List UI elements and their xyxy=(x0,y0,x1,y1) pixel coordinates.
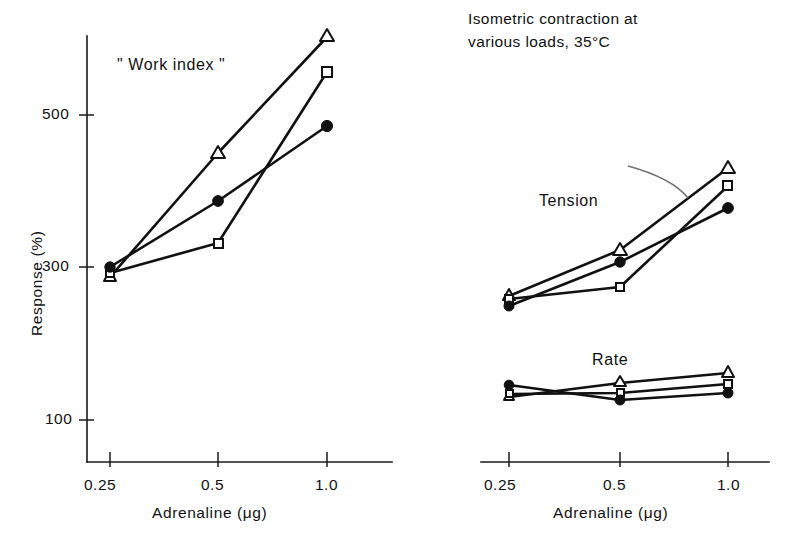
left-y-tick-label-100: 100 xyxy=(45,410,72,428)
marker-circle xyxy=(615,395,625,405)
left-series-square xyxy=(106,67,332,277)
marker-square xyxy=(214,239,223,248)
left-x-axis-title: Adrenaline (μg) xyxy=(152,504,267,522)
right-x-tick-label-025: 0.25 xyxy=(484,476,516,494)
marker-square xyxy=(322,67,332,77)
left-x-tick-label-05: 0.5 xyxy=(201,476,224,494)
left-x-tick-label-10: 1.0 xyxy=(315,476,338,494)
left-y-tick-label-300: 300 xyxy=(42,257,69,275)
figure-canvas: " Work index " 500 300 100 0.25 0.5 1.0 … xyxy=(0,0,788,536)
marker-circle xyxy=(213,196,224,207)
tension-series-circle xyxy=(504,203,733,311)
marker-circle xyxy=(723,388,733,398)
left-x-tick-label-025: 0.25 xyxy=(84,476,116,494)
left-y-axis-title: Response (%) xyxy=(28,231,46,336)
marker-square xyxy=(616,283,624,291)
marker-triangle xyxy=(722,366,734,377)
right-panel-title-line1: Isometric contraction at xyxy=(468,7,638,30)
right-panel-axes xyxy=(481,452,769,467)
left-panel-axes xyxy=(79,36,392,467)
marker-circle xyxy=(321,120,332,131)
tension-group-label: Tension xyxy=(539,192,598,210)
marker-circle xyxy=(723,203,734,214)
tension-pointer-arc xyxy=(628,166,688,198)
right-x-tick-label-10: 1.0 xyxy=(717,476,740,494)
tension-series-triangle xyxy=(503,161,735,300)
marker-triangle xyxy=(320,29,334,41)
marker-circle xyxy=(504,380,514,390)
marker-square xyxy=(723,181,732,190)
rate-group-label: Rate xyxy=(592,351,628,369)
left-panel-group-label: " Work index " xyxy=(117,56,225,74)
marker-square xyxy=(724,380,732,388)
marker-circle xyxy=(105,262,115,272)
marker-circle xyxy=(504,301,514,311)
chart-vector-layer xyxy=(0,0,788,536)
right-x-tick-label-05: 0.5 xyxy=(603,476,626,494)
marker-square xyxy=(506,390,513,397)
left-y-tick-label-500: 500 xyxy=(42,105,69,123)
right-x-axis-title: Adrenaline (μg) xyxy=(553,504,668,522)
right-panel-title-line2: various loads, 35°C xyxy=(468,30,610,53)
marker-circle xyxy=(615,257,625,267)
marker-triangle xyxy=(721,161,735,173)
marker-triangle xyxy=(614,376,626,386)
left-series-circle xyxy=(105,120,333,272)
